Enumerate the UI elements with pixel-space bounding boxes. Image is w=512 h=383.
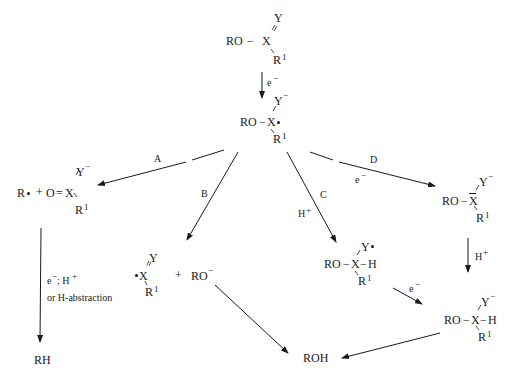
bond-dash: − (461, 195, 468, 207)
reagent-H-D: H (475, 252, 482, 262)
reagent-H-D-sup: + (483, 248, 488, 257)
atom-Y: Y (361, 241, 370, 253)
atom-X: X (469, 195, 478, 207)
step1-label: e (267, 78, 271, 88)
arrow-pathway-D (339, 162, 435, 186)
group-R: R (358, 275, 366, 287)
sup-1: 1 (282, 53, 287, 62)
plus: + (175, 269, 182, 281)
atom-O: O (46, 187, 55, 199)
pathway-label-A: A (154, 154, 161, 164)
group-RO: RO (240, 116, 257, 128)
atom-Y: Y (76, 166, 85, 178)
bond-dash: − (259, 116, 266, 128)
group-R: R (75, 204, 83, 216)
reagent-C: H (298, 209, 305, 219)
reagent-e: e (47, 276, 51, 286)
pathway-label-D: D (370, 155, 377, 165)
pathway-label-B: B (201, 189, 208, 199)
atom-Y: Y (149, 252, 158, 264)
bond-dash-2: − (480, 314, 487, 326)
atom-Y: Y (274, 12, 283, 24)
arrow-RO-to-ROH (215, 285, 288, 353)
charge-minus: − (490, 292, 495, 301)
bond-dash-2: − (360, 258, 367, 270)
reagent-C-sup: + (306, 206, 311, 215)
charge-minus: − (488, 172, 493, 181)
radical-dot (135, 274, 138, 277)
product-RH: RH (34, 354, 51, 366)
radical-dot (277, 121, 280, 124)
sup-1: 1 (485, 211, 490, 220)
reagent-H: ; H (57, 276, 70, 286)
atom-X: X (262, 35, 271, 47)
atom-X: X (139, 270, 148, 282)
arrow-final-to-ROH (342, 333, 440, 358)
atom-X: X (267, 116, 276, 128)
group-RO: RO (442, 195, 459, 207)
product-ROH: ROH (303, 352, 328, 364)
sup-1: 1 (487, 330, 492, 339)
reagent-e-C-sup: − (415, 280, 420, 289)
charge-minus: − (85, 162, 90, 171)
group-R: R (145, 286, 153, 298)
arrow-pathway-C (287, 152, 336, 242)
radical-dot (371, 245, 374, 248)
group-R: R (476, 212, 484, 224)
arrow-pathway-B (187, 152, 238, 240)
bond-dash: − (463, 314, 470, 326)
alkoxide-RO: RO (191, 270, 208, 282)
sup-1: 1 (367, 274, 372, 283)
group-R: R (273, 133, 281, 145)
group-R: R (478, 331, 486, 343)
charge-minus: − (283, 91, 288, 100)
group-RO: RO (324, 258, 341, 270)
sup-1: 1 (282, 132, 287, 141)
plus: + (36, 186, 43, 198)
atom-Y: Y (481, 296, 490, 308)
bond-dash: − (247, 35, 254, 47)
charge-minus: − (208, 266, 213, 275)
atom-Y: Y (274, 95, 283, 107)
radical-dot (27, 192, 30, 195)
arrow-to-RH (40, 228, 41, 342)
h-abstraction-label: or H-abstraction (47, 293, 112, 303)
radical-R: R (17, 187, 25, 199)
bond-dash: − (343, 258, 350, 270)
arrow-e-C (393, 288, 422, 304)
pathway-label-C: C (320, 190, 327, 200)
reagent-e-C: e (409, 284, 413, 294)
group-RO: RO (226, 35, 243, 47)
atom-H: H (488, 314, 497, 326)
sup-1: 1 (154, 285, 159, 294)
step1-label-sup: − (273, 74, 278, 83)
reagent-D-sup: − (361, 171, 366, 180)
atom-Y: Y (479, 176, 488, 188)
reaction-scheme: Y RO − X R 1 e − Y − RO − X R 1 A B C H … (0, 0, 512, 383)
arrow-pathway-A (98, 162, 186, 185)
arrows-layer (0, 0, 512, 383)
double-bond: = (56, 187, 63, 199)
atom-X: X (65, 187, 74, 199)
atom-H: H (368, 258, 377, 270)
atom-X: X (351, 258, 360, 270)
reagent-H-sup: + (72, 272, 77, 281)
group-RO: RO (444, 314, 461, 326)
atom-X: X (471, 314, 480, 326)
reagent-D: e (355, 175, 359, 185)
group-R: R (273, 54, 281, 66)
sup-1: 1 (84, 203, 89, 212)
